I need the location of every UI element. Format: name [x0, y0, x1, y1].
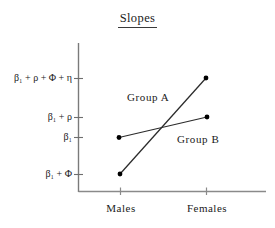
y-tick-label-row-3: β₁: [0, 131, 72, 142]
y-tick-label-row-1: β₁ + ρ + Φ + η: [0, 72, 72, 83]
series-annotation-group-b: Group B: [177, 133, 219, 146]
y-tick-label-row-2: β₁ + ρ: [0, 111, 72, 122]
data-point-group-b-males: [117, 135, 122, 140]
data-point-group-a-females: [204, 76, 209, 81]
chart-figure: Slopes β₁ + ρ + Φ + η β₁ + ρ β₁ β₁ + Φ: [0, 0, 275, 228]
x-tick-label-females: Females: [171, 202, 243, 215]
x-tick-label-males: Males: [86, 202, 156, 215]
y-tick-label-beta1: β₁: [63, 131, 72, 142]
y-tick-label-beta1-phi: β₁ + Φ: [45, 168, 72, 179]
series-annotation-group-a: Group A: [127, 91, 169, 104]
data-point-group-b-females: [205, 115, 210, 120]
y-tick-label-beta1-rho: β₁ + ρ: [48, 111, 72, 122]
y-tick-label-row-4: β₁ + Φ: [0, 168, 72, 179]
y-tick-label-beta1-rho-phi-eta: β₁ + ρ + Φ + η: [14, 72, 72, 83]
data-point-group-a-males: [118, 172, 123, 177]
